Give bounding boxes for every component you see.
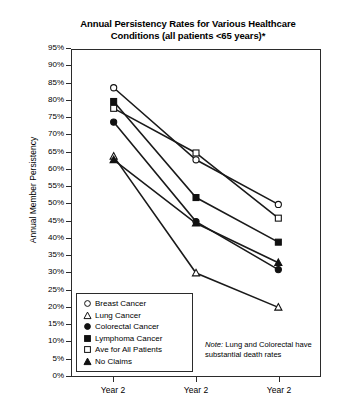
y-tick-mark <box>66 169 71 170</box>
filled-triangle-icon <box>83 357 92 366</box>
legend-item-label: No Claims <box>95 357 132 366</box>
y-tick-label: 60% <box>48 164 64 173</box>
y-tick-label: 50% <box>48 198 64 207</box>
open-triangle-icon <box>83 311 92 320</box>
y-tick-mark <box>66 272 71 273</box>
y-tick-mark <box>66 324 71 325</box>
data-point-open-circle <box>111 85 117 91</box>
y-tick-label: 95% <box>48 43 64 52</box>
data-point-filled-circle <box>275 267 281 273</box>
y-tick-label: 20% <box>48 302 64 311</box>
y-tick-label: 65% <box>48 147 64 156</box>
y-tick-label: 45% <box>48 216 64 225</box>
y-tick-label: 25% <box>48 285 64 294</box>
y-tick-label: 85% <box>48 78 64 87</box>
data-point-filled-square <box>111 98 117 104</box>
y-tick-mark <box>66 117 71 118</box>
chart-title: Annual Persistency Rates for Various Hea… <box>38 18 338 42</box>
x-tick-mark <box>279 377 280 382</box>
legend-item-label: Colorectal Cancer <box>95 322 159 331</box>
note-label: Note: <box>205 340 223 349</box>
chart-note: Note: Lung and Colorectal have substanti… <box>205 340 317 359</box>
x-tick-label: Year 2 <box>251 385 307 395</box>
y-tick-mark <box>66 376 71 377</box>
y-tick-mark <box>66 238 71 239</box>
y-tick-mark <box>66 307 71 308</box>
chart-container: Annual Persistency Rates for Various Hea… <box>0 0 344 416</box>
series-no-claims <box>110 156 282 266</box>
legend-marker <box>82 345 93 354</box>
x-tick-mark <box>196 377 197 382</box>
data-point-filled-circle <box>111 119 117 125</box>
legend-item[interactable]: Colorectal Cancer <box>82 321 187 333</box>
legend-item-label: Lymphoma Cancer <box>95 334 162 343</box>
chart-legend: Breast CancerLung CancerColorectal Cance… <box>76 293 193 372</box>
y-tick-label: 10% <box>48 336 64 345</box>
legend-marker <box>82 357 93 366</box>
legend-item[interactable]: Lung Cancer <box>82 310 187 322</box>
filled-circle-icon <box>83 322 92 331</box>
y-tick-mark <box>66 221 71 222</box>
legend-item-label: Breast Cancer <box>95 299 146 308</box>
legend-item-label: Ave for All Patients <box>95 345 162 354</box>
legend-marker <box>82 322 93 331</box>
data-point-open-circle <box>193 157 199 163</box>
legend-marker <box>82 334 93 343</box>
y-tick-label: 70% <box>48 129 64 138</box>
legend-item[interactable]: Ave for All Patients <box>82 344 187 356</box>
legend-marker <box>82 299 93 308</box>
legend-item[interactable]: Lymphoma Cancer <box>82 333 187 345</box>
y-tick-label: 90% <box>48 60 64 69</box>
y-tick-label: 5% <box>52 354 64 363</box>
y-tick-mark <box>66 341 71 342</box>
data-point-filled-square <box>193 195 199 201</box>
data-point-open-square <box>275 215 281 221</box>
y-tick-label: 15% <box>48 319 64 328</box>
y-tick-mark <box>66 48 71 49</box>
legend-item[interactable]: Breast Cancer <box>82 298 187 310</box>
open-circle-icon <box>83 299 92 308</box>
data-point-filled-square <box>275 239 281 245</box>
y-tick-label: 30% <box>48 267 64 276</box>
y-tick-label: 35% <box>48 250 64 259</box>
legend-item-label: Lung Cancer <box>95 311 141 320</box>
open-square-icon <box>83 345 92 354</box>
y-tick-label: 0% <box>52 371 64 380</box>
x-tick-label: Year 2 <box>168 385 224 395</box>
y-tick-mark <box>66 83 71 84</box>
series-line <box>114 160 279 263</box>
y-tick-label: 80% <box>48 95 64 104</box>
y-tick-mark <box>66 255 71 256</box>
y-axis-label: Annual Member Persistency <box>28 110 38 270</box>
data-point-open-square <box>193 150 199 156</box>
x-tick-mark <box>113 377 114 382</box>
chart-title-line-2: Conditions (all patients <65 years)* <box>111 30 266 41</box>
data-point-open-square <box>111 105 117 111</box>
y-tick-mark <box>66 152 71 153</box>
y-tick-mark <box>66 290 71 291</box>
y-tick-mark <box>66 186 71 187</box>
chart-title-line-1: Annual Persistency Rates for Various Hea… <box>80 18 295 29</box>
legend-item[interactable]: No Claims <box>82 356 187 368</box>
y-tick-mark <box>66 65 71 66</box>
y-tick-mark <box>66 359 71 360</box>
y-tick-label: 75% <box>48 112 64 121</box>
y-tick-label: 55% <box>48 181 64 190</box>
series-line <box>114 88 279 205</box>
data-point-open-circle <box>275 201 281 207</box>
x-tick-label: Year 2 <box>85 385 141 395</box>
legend-marker <box>82 311 93 320</box>
y-tick-mark <box>66 134 71 135</box>
y-tick-mark <box>66 203 71 204</box>
y-tick-mark <box>66 100 71 101</box>
y-tick-label: 40% <box>48 233 64 242</box>
filled-square-icon <box>83 334 92 343</box>
